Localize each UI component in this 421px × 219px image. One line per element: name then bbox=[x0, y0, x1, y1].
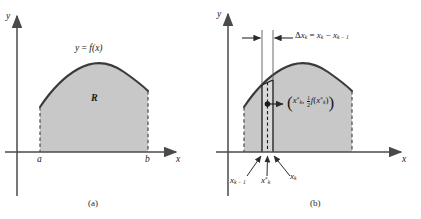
panel-a-x-axis-label: x bbox=[176, 155, 180, 165]
leader-right bbox=[274, 156, 290, 176]
panel-a-caption: (a) bbox=[88, 198, 98, 208]
curve-label: y = f(x) bbox=[75, 44, 103, 54]
figure-container: y x y = f(x) R a b (a) bbox=[0, 0, 421, 219]
tl-mid-sub: k bbox=[268, 179, 270, 185]
panel-b: y x Δxk = xk − xk − 1 (x*k, 12f(x*k)) xk… bbox=[211, 0, 421, 219]
midpoint-coordinate-label: (x*k, 12f(x*k)) bbox=[287, 95, 334, 108]
panel-b-caption: (b) bbox=[310, 198, 321, 208]
leader-left bbox=[247, 156, 261, 176]
leader-mid bbox=[267, 156, 268, 176]
tl-left-sub: k − 1 bbox=[234, 179, 246, 185]
tick-label-x-star-k: x*k bbox=[261, 176, 270, 186]
strip-width-label: Δxk = xk − xk − 1 bbox=[295, 31, 349, 41]
midpoint-dot bbox=[265, 101, 271, 107]
tick-label-x-k-minus-1: xk − 1 bbox=[230, 176, 246, 186]
panel-a-y-axis-label: y bbox=[6, 12, 10, 22]
tl-right-sub: k bbox=[294, 175, 296, 181]
paren-close: ) bbox=[328, 93, 334, 112]
panel-a: y x y = f(x) R a b (a) bbox=[0, 0, 210, 219]
bound-label-b: b bbox=[145, 155, 150, 165]
region-label-r: R bbox=[91, 93, 98, 103]
width-sub3: k − 1 bbox=[337, 34, 349, 40]
tick-label-x-k: xk bbox=[290, 172, 296, 182]
bound-label-a: a bbox=[37, 155, 42, 165]
panel-b-y-axis-label: y bbox=[217, 10, 221, 20]
panel-a-graphic bbox=[0, 0, 210, 219]
panel-b-x-axis-label: x bbox=[402, 155, 406, 165]
curve-label-arg: (x) bbox=[92, 43, 103, 53]
